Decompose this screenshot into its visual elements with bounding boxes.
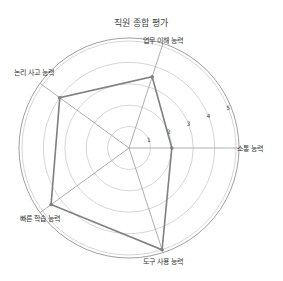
axis-line [40, 83, 129, 148]
data-point [160, 248, 164, 252]
radial-tick-labels: 12345 [147, 104, 230, 143]
data-point [150, 75, 154, 79]
tick-label: 1 [147, 136, 151, 143]
data-point [170, 146, 174, 150]
axis-line [129, 148, 163, 253]
data-point [49, 203, 53, 207]
axis-label: 업무 이해 능력 [143, 36, 183, 45]
tick-label: 5 [226, 104, 230, 111]
axis-label: 소통 능력 [237, 145, 263, 153]
axis-label: 도구 사용 능력 [143, 257, 183, 266]
data-series [49, 75, 173, 252]
axis-label: 빠른 학습 능력 [20, 214, 60, 223]
tick-label: 4 [206, 112, 210, 119]
radar-axes [40, 43, 239, 252]
chart-title: 직원 종합 평가 [114, 18, 168, 28]
axis-labels: 소통 능력업무 이해 능력논리 사고 능력빠른 학습 능력도구 사용 능력 [14, 36, 263, 266]
axis-label: 논리 사고 능력 [14, 68, 54, 77]
radar-chart: 직원 종합 평가 12345 소통 능력업무 이해 능력논리 사고 능력빠른 학… [0, 0, 283, 281]
data-point [58, 96, 62, 100]
tick-label: 3 [187, 120, 191, 127]
